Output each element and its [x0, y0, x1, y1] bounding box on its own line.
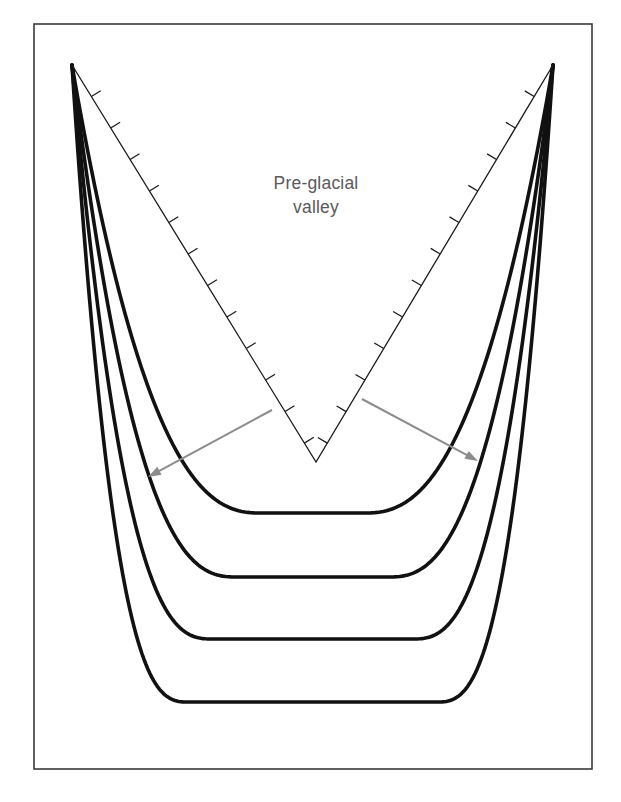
glacial-valley-diagram: Pre-glacial valley: [0, 0, 621, 802]
valley-label-line1: Pre-glacial: [274, 173, 359, 193]
figure-root: Pre-glacial valley: [0, 0, 621, 802]
figure-background: [0, 0, 621, 802]
valley-label-line2: valley: [293, 197, 339, 217]
